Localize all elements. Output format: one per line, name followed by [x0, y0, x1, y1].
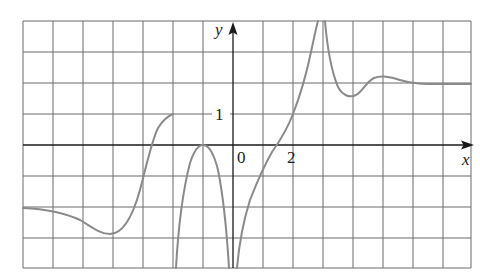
- y-tick-label-1: 1: [215, 105, 224, 124]
- y-axis-label: y: [213, 20, 223, 39]
- curve-left-branch: [23, 114, 173, 234]
- x-tick-label-2: 2: [287, 148, 296, 167]
- axes: [23, 22, 474, 268]
- x-axis-label: x: [461, 150, 470, 169]
- function-graph: y x 0 2 1: [0, 0, 480, 278]
- origin-label: 0: [237, 148, 246, 167]
- curve-far-right-branch: [325, 21, 471, 96]
